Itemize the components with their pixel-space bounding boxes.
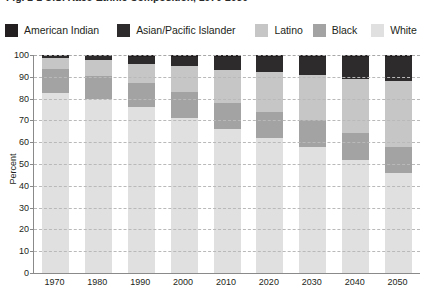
gridline-90	[34, 77, 420, 78]
legend-item-american-indian: American Indian	[5, 24, 99, 37]
bar-segment-1990-white	[128, 107, 155, 273]
y-tick-mark-10	[30, 251, 34, 252]
legend-label-latino: Latino	[274, 24, 302, 36]
bar-segment-1970-black	[42, 69, 69, 93]
bar-segment-2040-white	[342, 160, 369, 273]
gridline-80	[34, 99, 420, 100]
y-tick-mark-30	[30, 208, 34, 209]
legend-label-american-indian: American Indian	[24, 24, 99, 36]
bar-segment-2000-asian-pacific-islander	[171, 57, 198, 66]
y-tick-mark-0	[30, 273, 34, 274]
y-tick-label-20: 20	[19, 224, 29, 234]
y-tick-mark-40	[30, 186, 34, 187]
y-tick-label-50: 50	[19, 159, 29, 169]
bar-segment-2020-black	[256, 112, 283, 138]
y-tick-label-100: 100	[14, 50, 29, 60]
legend-swatch-white	[371, 24, 384, 37]
plot-area: Percent 0102030405060708090100 197019801…	[0, 44, 421, 294]
gridline-50	[34, 164, 420, 165]
x-tick-label-1980: 1980	[74, 277, 120, 287]
x-tick-label-2020: 2020	[246, 277, 292, 287]
bar-segment-2030-white	[299, 147, 326, 273]
bar-segment-2000-latino	[171, 66, 198, 92]
legend-item-asian-pacific-islander: Asian/Pacific Islander	[117, 24, 235, 37]
bar-segment-2020-white	[256, 138, 283, 273]
legend-label-black: Black	[332, 24, 357, 36]
y-tick-label-70: 70	[19, 115, 29, 125]
gridline-60	[34, 142, 420, 143]
bar-segment-1980-latino	[85, 60, 112, 75]
gridline-30	[34, 208, 420, 209]
bar-segment-2020-asian-pacific-islander	[256, 57, 283, 72]
y-tick-mark-50	[30, 164, 34, 165]
x-tick-label-2030: 2030	[289, 277, 335, 287]
gridline-20	[34, 229, 420, 230]
y-tick-label-60: 60	[19, 137, 29, 147]
x-tick-label-2040: 2040	[332, 277, 378, 287]
y-tick-mark-70	[30, 120, 34, 121]
bar-segment-2020-latino	[256, 72, 283, 111]
y-axis-label: Percent	[8, 139, 18, 199]
bar-segment-2040-latino	[342, 79, 369, 134]
legend-item-latino: Latino	[255, 24, 302, 37]
bar-segment-2030-asian-pacific-islander	[299, 57, 326, 74]
x-tick-label-2000: 2000	[160, 277, 206, 287]
bar-segment-2050-latino	[385, 81, 412, 146]
legend-label-white: White	[390, 24, 417, 36]
x-tick-label-2010: 2010	[203, 277, 249, 287]
bar-segment-2030-latino	[299, 75, 326, 121]
bar-segment-1970-latino	[42, 58, 69, 69]
gridline-70	[34, 120, 420, 121]
y-tick-mark-100	[30, 55, 34, 56]
bar-segment-2010-asian-pacific-islander	[214, 57, 241, 70]
y-tick-mark-20	[30, 229, 34, 230]
legend-item-black: Black	[313, 24, 357, 37]
bar-segment-1980-black	[85, 76, 112, 100]
plot-canvas: 0102030405060708090100	[33, 55, 420, 273]
gridline-10	[34, 251, 420, 252]
bar-segment-2040-asian-pacific-islander	[342, 57, 369, 79]
y-tick-mark-60	[30, 142, 34, 143]
bar-segment-2000-black	[171, 92, 198, 118]
x-tick-label-1990: 1990	[117, 277, 163, 287]
y-tick-label-0: 0	[24, 268, 29, 278]
legend-item-white: White	[371, 24, 417, 37]
legend-swatch-black	[313, 24, 326, 37]
figure-title: Fig. 1-1 U.S. Race-Ethnic Composition, 1…	[6, 0, 248, 3]
legend-swatch-latino	[255, 24, 268, 37]
y-tick-label-80: 80	[19, 94, 29, 104]
bar-segment-2010-black	[214, 103, 241, 129]
x-axis-line	[33, 273, 420, 274]
gridline-40	[34, 186, 420, 187]
y-tick-mark-90	[30, 77, 34, 78]
bar-segment-1990-black	[128, 83, 155, 107]
gridline-100	[34, 55, 420, 56]
x-tick-label-1970: 1970	[31, 277, 77, 287]
legend-swatch-american-indian	[5, 24, 18, 37]
y-tick-label-40: 40	[19, 181, 29, 191]
chart-figure: Fig. 1-1 U.S. Race-Ethnic Composition, 1…	[0, 0, 421, 294]
y-tick-label-10: 10	[19, 246, 29, 256]
x-tick-label-2050: 2050	[375, 277, 421, 287]
y-tick-mark-80	[30, 99, 34, 100]
bar-segment-2050-white	[385, 173, 412, 273]
legend-swatch-asian-pacific-islander	[117, 24, 130, 37]
bar-segment-2050-black	[385, 147, 412, 173]
y-tick-label-30: 30	[19, 203, 29, 213]
bar-segment-1990-latino	[128, 64, 155, 84]
chart-legend: American IndianAsian/Pacific IslanderLat…	[5, 22, 417, 38]
y-tick-label-90: 90	[19, 72, 29, 82]
legend-label-asian-pacific-islander: Asian/Pacific Islander	[136, 24, 235, 36]
bar-segment-2040-black	[342, 133, 369, 159]
